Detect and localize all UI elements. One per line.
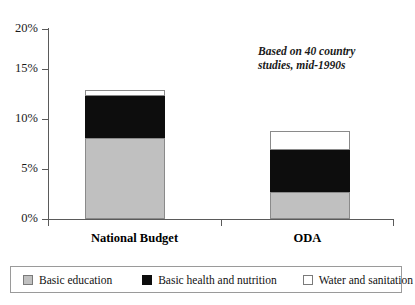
y-tick-15: [42, 69, 49, 70]
x-tick-end: [393, 220, 394, 226]
y-tick-label-0: 0%: [0, 212, 38, 224]
y-axis-line: [48, 28, 49, 220]
legend-item-basic-health-and-nutrition: Basic health and nutrition: [142, 274, 277, 286]
x-tick-middle: [221, 220, 222, 226]
bar-segment-basic-health-and-nutrition: [85, 96, 165, 138]
legend-item-water-and-sanitation: Water and sanitation: [303, 274, 413, 286]
y-tick-label-20: 20%: [0, 22, 38, 34]
x-label-national-budget: National Budget: [48, 231, 221, 246]
annotation-line-1: Based on 40 country: [258, 44, 410, 58]
legend-swatch-icon: [23, 275, 33, 285]
annotation-line-2: studies, mid-1990s: [258, 58, 410, 72]
y-tick-label-5: 5%: [0, 162, 38, 174]
bar-segment-basic-education: [85, 138, 165, 219]
x-tick-start: [48, 220, 49, 226]
legend-swatch-icon: [303, 275, 313, 285]
legend-label-water-and-sanitation: Water and sanitation: [319, 274, 413, 286]
y-tick-20: [42, 29, 49, 30]
bar-segment-basic-health-and-nutrition: [270, 150, 350, 192]
bar-segment-water-and-sanitation: [270, 131, 350, 150]
bar-segment-basic-education: [270, 192, 350, 219]
y-tick-10: [42, 119, 49, 120]
x-label-oda: ODA: [221, 231, 394, 246]
legend-item-basic-education: Basic education: [23, 274, 112, 286]
legend-label-basic-health-and-nutrition: Basic health and nutrition: [158, 274, 277, 286]
y-tick-label-10: 10%: [0, 112, 38, 124]
chart-annotation: Based on 40 country studies, mid-1990s: [258, 44, 410, 72]
bar-national-budget: [85, 90, 165, 219]
legend-label-basic-education: Basic education: [39, 274, 112, 286]
y-tick-5: [42, 169, 49, 170]
bar-oda: [270, 131, 350, 219]
chart-legend: Basic education Basic health and nutriti…: [10, 266, 402, 293]
legend-swatch-icon: [142, 275, 152, 285]
y-tick-label-15: 15%: [0, 62, 38, 74]
chart-area: 20% 15% 10% 5% 0% National Budget ODA Ba…: [0, 0, 415, 258]
